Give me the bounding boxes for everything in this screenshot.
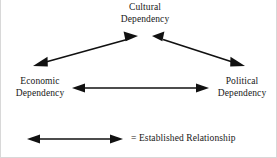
arrow-head-toward-cultural-right [152,32,164,42]
node-economic-line1: Economic [16,76,64,88]
edge-cultural-political [152,32,245,67]
edge-economic-cultural [33,32,138,67]
arrow-head-toward-cultural [124,32,138,42]
legend-label: = Established Relationship [131,132,236,144]
node-cultural-line2: Dependency [121,14,169,26]
node-cultural-line1: Cultural [121,2,169,14]
node-political-dependency: Political Dependency [218,76,266,99]
arrow-head-toward-political [230,57,245,67]
dependency-relationship-diagram: Cultural Dependency Economic Dependency … [0,0,277,158]
node-political-line1: Political [218,76,266,88]
node-economic-dependency: Economic Dependency [16,76,64,99]
node-cultural-dependency: Cultural Dependency [121,2,169,25]
arrow-head-toward-economic [33,57,48,67]
edge-economic-political [72,84,209,93]
node-political-line2: Dependency [218,88,266,100]
arrow-head-left-horizontal [72,84,85,93]
legend-double-arrow-icon [27,135,123,144]
legend-arrow-head-left [27,135,40,144]
legend-arrow-head-right [110,135,123,144]
node-economic-line2: Dependency [16,88,64,100]
arrow-head-right-horizontal [196,84,209,93]
